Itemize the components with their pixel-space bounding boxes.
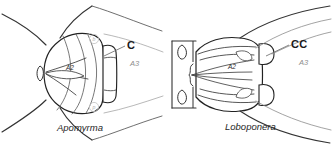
label-structure-cc: CC: [291, 39, 307, 50]
label-taxon-loboponera: Loboponera: [225, 122, 276, 132]
label-segment-a2-right: A2: [228, 64, 236, 71]
body-a2-outline-right: [196, 38, 263, 112]
figure-linework: b p: [0, 0, 332, 149]
label-segment-a3-left: A3: [130, 60, 139, 68]
figure-root: b p: [0, 0, 332, 149]
label-segment-a2-left: A2: [66, 65, 74, 72]
structure-cc-lower: [259, 84, 274, 105]
structure-c-plate: [103, 45, 117, 103]
label-taxon-apomyrma: Apomyrma: [57, 123, 103, 133]
contour-left-upper-outer: [2, 14, 46, 45]
lobe-upper-left-right: [178, 45, 187, 59]
contour-left-lower-outer: [2, 100, 46, 132]
contour-a3-upper-left: [92, 6, 162, 31]
lobe-lower-left-right: [178, 90, 187, 104]
panel-left-apomyrma: b p: [2, 6, 163, 140]
marker-label-upper-left: b: [93, 36, 96, 42]
helcium-left: [37, 66, 43, 81]
label-structure-c: C: [127, 40, 135, 51]
label-segment-a3-right: A3: [299, 59, 308, 67]
marker-label-lower-left: p: [92, 104, 96, 110]
